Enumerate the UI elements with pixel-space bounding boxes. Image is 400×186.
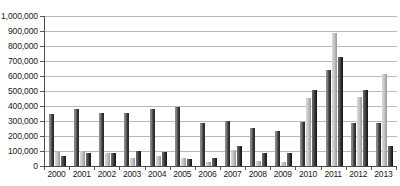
- x-tick-label: 2002: [94, 170, 119, 179]
- bar-group: [146, 16, 171, 166]
- x-tick-label: 2009: [270, 170, 295, 179]
- bar-group: [196, 16, 221, 166]
- y-tick-label: 200,000: [8, 132, 38, 141]
- bar: [376, 123, 381, 167]
- bar: [74, 109, 79, 166]
- plot-area: [44, 16, 397, 167]
- bar: [225, 121, 230, 166]
- x-tick-label: 2011: [321, 170, 346, 179]
- bar: [181, 158, 186, 166]
- bar: [287, 153, 292, 167]
- x-tick-mark: [295, 167, 296, 170]
- bar: [105, 153, 110, 166]
- bar-group: [372, 16, 397, 166]
- x-tick-mark: [195, 167, 196, 170]
- bar: [306, 98, 311, 166]
- x-tick-label: 2004: [145, 170, 170, 179]
- bar: [156, 156, 161, 166]
- x-tick-label: 2013: [371, 170, 396, 179]
- x-tick-label: 2010: [295, 170, 320, 179]
- bar: [99, 113, 104, 166]
- bar: [338, 57, 343, 166]
- bar: [150, 109, 155, 166]
- y-axis: 0100,000200,000300,000400,000500,000600,…: [0, 0, 44, 186]
- x-tick-mark: [145, 167, 146, 170]
- bar-group: [70, 16, 95, 166]
- bar-group: [246, 16, 271, 166]
- y-tick-label: 600,000: [8, 72, 38, 81]
- bar: [312, 90, 317, 167]
- x-axis: 2000200120022003200420052006200720082009…: [44, 170, 396, 179]
- bar: [281, 162, 286, 166]
- y-tick-label: 100,000: [8, 147, 38, 156]
- bar: [187, 159, 192, 166]
- bar-group: [271, 16, 296, 166]
- y-tick-label: 0: [33, 162, 38, 171]
- x-tick-label: 2000: [44, 170, 69, 179]
- y-tick-label: 900,000: [8, 27, 38, 36]
- bar: [124, 113, 129, 166]
- x-tick-mark: [44, 167, 45, 170]
- bar: [256, 161, 261, 166]
- bar: [275, 131, 280, 166]
- x-tick-mark: [270, 167, 271, 170]
- y-tick-label: 500,000: [8, 87, 38, 96]
- bar: [332, 33, 337, 167]
- bar: [250, 128, 255, 166]
- bar-group: [322, 16, 347, 166]
- bar: [136, 151, 141, 166]
- x-tick-mark: [396, 167, 397, 170]
- y-tick-label: 1,000,000: [1, 12, 38, 21]
- bar-group: [221, 16, 246, 166]
- bar: [200, 123, 205, 167]
- bar: [175, 107, 180, 166]
- x-tick-mark: [170, 167, 171, 170]
- x-tick-label: 2012: [346, 170, 371, 179]
- bar-group: [347, 16, 372, 166]
- bar-group: [45, 16, 70, 166]
- bar: [363, 90, 368, 167]
- bar: [80, 151, 85, 166]
- x-tick-mark: [321, 167, 322, 170]
- y-tick-label: 700,000: [8, 57, 38, 66]
- x-tick-label: 2008: [245, 170, 270, 179]
- bar-group: [296, 16, 321, 166]
- bar: [55, 152, 60, 166]
- bar: [162, 152, 167, 166]
- bar: [206, 162, 211, 167]
- bar: [351, 123, 356, 167]
- bar-groups: [45, 16, 397, 166]
- bar: [326, 70, 331, 166]
- bar-group: [171, 16, 196, 166]
- x-tick-label: 2006: [195, 170, 220, 179]
- bar-group: [120, 16, 145, 166]
- bar-chart: 0100,000200,000300,000400,000500,000600,…: [0, 0, 400, 186]
- bar: [61, 156, 66, 166]
- y-tick-label: 400,000: [8, 102, 38, 111]
- x-tick-mark: [220, 167, 221, 170]
- x-tick-label: 2001: [69, 170, 94, 179]
- bar: [300, 122, 305, 166]
- x-tick-label: 2003: [119, 170, 144, 179]
- x-tick-mark: [94, 167, 95, 170]
- bar: [86, 153, 91, 166]
- x-tick-mark: [119, 167, 120, 170]
- x-tick-mark: [371, 167, 372, 170]
- bar: [212, 158, 217, 166]
- x-tick-label: 2007: [220, 170, 245, 179]
- x-tick-mark: [245, 167, 246, 170]
- bar: [382, 74, 387, 166]
- bar: [130, 158, 135, 166]
- bar-group: [95, 16, 120, 166]
- bar: [111, 153, 116, 166]
- bar: [237, 146, 242, 166]
- bar: [49, 114, 54, 166]
- bar: [357, 97, 362, 166]
- bar: [231, 150, 236, 167]
- y-tick-label: 800,000: [8, 42, 38, 51]
- x-tick-label: 2005: [170, 170, 195, 179]
- x-tick-mark: [69, 167, 70, 170]
- y-tick-label: 300,000: [8, 117, 38, 126]
- x-tick-mark: [346, 167, 347, 170]
- bar: [388, 146, 393, 166]
